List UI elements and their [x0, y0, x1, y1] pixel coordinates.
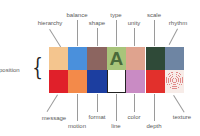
leader-message — [47, 95, 58, 112]
label-motion: motion — [68, 123, 86, 130]
cell-message — [49, 70, 68, 93]
leader-rhythm — [169, 29, 178, 45]
label-type: type — [110, 12, 121, 19]
leader-line — [116, 94, 117, 121]
label-format: format — [88, 114, 105, 121]
label-depth: depth — [146, 123, 161, 130]
leader-motion — [77, 94, 78, 121]
cell-line — [107, 70, 126, 93]
leader-unity — [134, 28, 135, 46]
leader-depth — [154, 94, 155, 121]
label-balance: balance — [66, 12, 87, 19]
cell-scale — [146, 47, 165, 70]
composition-label: mposition — [0, 67, 20, 73]
label-texture: texture — [173, 114, 191, 121]
cell-motion — [68, 70, 87, 93]
cell-type: A — [107, 47, 126, 70]
label-unity: unity — [128, 20, 141, 27]
leader-type — [116, 20, 117, 46]
cell-texture — [165, 70, 184, 93]
leader-color — [134, 94, 135, 112]
leader-balance — [77, 20, 78, 46]
letter-a-glyph: A — [107, 47, 126, 70]
leader-texture — [173, 95, 184, 112]
cell-balance — [68, 47, 87, 70]
label-shape: shape — [89, 20, 105, 27]
cell-hierarchy — [49, 47, 68, 70]
leader-format — [97, 94, 98, 112]
label-scale: scale — [147, 12, 161, 19]
brace-icon: { — [32, 55, 43, 79]
cell-color — [126, 70, 145, 93]
cell-depth — [146, 70, 165, 93]
label-message: message — [42, 115, 66, 122]
leader-hierarchy — [49, 29, 61, 47]
label-hierarchy: hierarchy — [38, 20, 63, 27]
leader-shape — [97, 28, 98, 46]
leader-scale — [154, 20, 155, 46]
label-rhythm: rhythm — [169, 20, 187, 27]
label-line: line — [111, 123, 120, 130]
cell-rhythm — [165, 47, 184, 70]
cell-format — [87, 70, 106, 93]
label-color: color — [127, 114, 140, 121]
cell-shape — [87, 47, 106, 70]
cell-unity — [126, 47, 145, 70]
